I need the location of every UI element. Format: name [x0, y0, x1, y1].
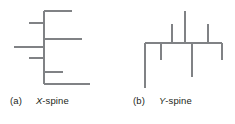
- caption-panel-a: (a) X-spine: [10, 95, 69, 106]
- panel-a-x-spine: [14, 11, 90, 84]
- caption-a-label: X-spine: [36, 95, 69, 106]
- panel-b-y-spine: [145, 11, 222, 88]
- caption-panel-b: (b) Y-spine: [133, 95, 192, 106]
- caption-a-suffix: -spine: [42, 95, 68, 106]
- caption-b-tag: (b): [133, 95, 145, 106]
- caption-b-label: Y-spine: [159, 95, 192, 106]
- caption-b-suffix: -spine: [165, 95, 191, 106]
- caption-row: (a) X-spine (b) Y-spine: [0, 95, 235, 115]
- figure-container: (a) X-spine (b) Y-spine: [0, 0, 235, 124]
- caption-a-tag: (a): [10, 95, 22, 106]
